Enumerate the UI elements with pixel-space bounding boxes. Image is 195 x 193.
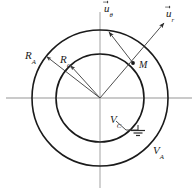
- label-potential-outer-sub: A: [160, 153, 164, 160]
- radius-inner-leader: [71, 66, 101, 99]
- point-m-marker: [131, 61, 135, 65]
- vector-u-theta-base: u: [104, 3, 110, 14]
- label-radius-outer: RA: [25, 50, 36, 64]
- label-vector-u-theta: u θ: [104, 3, 113, 17]
- label-radius-inner-base: R: [60, 53, 67, 65]
- radial-ray-u-r: [100, 23, 164, 98]
- label-vector-u-r: u r: [166, 8, 174, 22]
- label-potential-inner: VC: [110, 114, 121, 128]
- label-radius-inner-sub: C: [67, 62, 72, 69]
- vector-arrow-overbar-icon: [165, 5, 171, 9]
- label-potential-outer-base: V: [153, 144, 160, 156]
- label-radius-inner: RC: [60, 54, 71, 68]
- vector-u-theta-sub: θ: [110, 11, 113, 18]
- label-point-m-base: M: [139, 59, 147, 70]
- label-potential-outer: VA: [153, 145, 164, 159]
- vector-arrow-overbar-icon: [103, 0, 109, 4]
- vector-u-r-sub: r: [172, 16, 175, 23]
- label-potential-inner-base: V: [110, 113, 117, 125]
- label-point-m: M: [139, 60, 147, 70]
- label-radius-outer-base: R: [25, 49, 32, 61]
- figure-canvas: RA RC M VC VA u θ u r: [0, 0, 195, 193]
- diagram-svg: [0, 0, 195, 193]
- label-potential-inner-sub: C: [117, 122, 122, 129]
- vector-u-theta-stack: u: [104, 3, 110, 14]
- label-radius-outer-sub: A: [32, 58, 36, 65]
- vector-u-r-stack: u: [166, 8, 172, 19]
- vector-u-r-base: u: [166, 8, 172, 19]
